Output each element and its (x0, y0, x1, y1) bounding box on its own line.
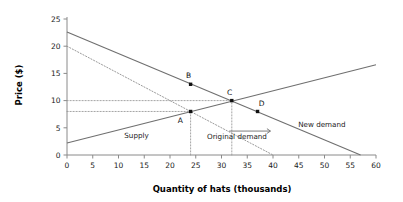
y-tick-label: 10 (51, 96, 61, 105)
data-point-A (189, 110, 192, 113)
data-point-label-D: D (259, 99, 265, 108)
x-tick-label: 55 (345, 161, 355, 170)
data-points: ABCD (178, 71, 265, 125)
y-axis-title: Price ($) (14, 65, 24, 106)
x-tick-label: 15 (139, 161, 149, 170)
series-label-supply: Supply (124, 131, 149, 140)
data-point-C (230, 99, 233, 102)
data-point-B (189, 83, 192, 86)
data-point-label-C: C (227, 88, 232, 97)
data-point-D (256, 110, 259, 113)
series-label-original-demand: Original demand (207, 132, 267, 141)
y-tick-label: 5 (56, 124, 61, 133)
guide-lines (67, 101, 232, 155)
y-tick-label: 15 (51, 69, 61, 78)
x-axis-title: Quantity of hats (thousands) (153, 184, 292, 194)
x-tick-label: 20 (165, 161, 175, 170)
y-tick-label: 0 (56, 151, 61, 160)
x-axis-ticks: 051015202530354045505560 (65, 155, 381, 170)
series-label-new-demand: New demand (298, 120, 345, 129)
x-tick-label: 35 (242, 161, 252, 170)
x-tick-label: 10 (114, 161, 124, 170)
x-tick-label: 25 (191, 161, 201, 170)
x-tick-label: 45 (294, 161, 304, 170)
y-axis-ticks: 0510152025 (51, 15, 67, 160)
y-tick-label: 20 (51, 42, 61, 51)
x-tick-label: 5 (90, 161, 95, 170)
x-tick-label: 30 (217, 161, 227, 170)
x-tick-label: 0 (65, 161, 70, 170)
series-labels: SupplyNew demandOriginal demand (124, 120, 345, 141)
data-point-label-B: B (186, 71, 191, 80)
supply-demand-chart: 051015202530354045505560 0510152025 ABCD… (0, 0, 403, 202)
x-tick-label: 60 (371, 161, 381, 170)
data-point-label-A: A (178, 116, 184, 125)
x-tick-label: 40 (268, 161, 278, 170)
x-tick-label: 50 (320, 161, 330, 170)
chart-canvas: 051015202530354045505560 0510152025 ABCD… (0, 0, 403, 202)
y-tick-label: 25 (51, 15, 61, 24)
